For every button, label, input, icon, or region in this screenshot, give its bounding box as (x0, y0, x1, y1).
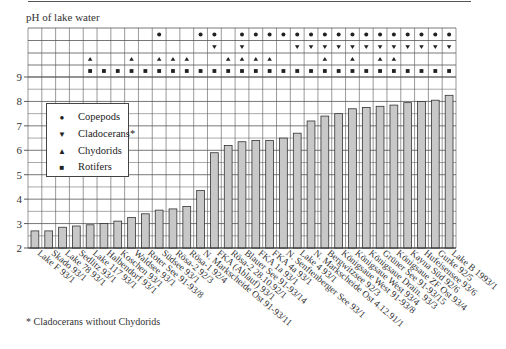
triangle-up-marker-icon (323, 57, 328, 61)
triangle-down-marker-icon (378, 45, 383, 49)
circle-marker-icon (199, 33, 203, 37)
bar (128, 217, 136, 248)
y-tick-label: 9 (17, 71, 23, 83)
triangle-up-marker-icon (157, 57, 162, 61)
square-marker-icon (433, 69, 437, 73)
triangle-down-marker-icon (364, 45, 369, 49)
square-marker-icon (378, 69, 382, 73)
legend-label: Copepods (78, 110, 120, 124)
triangle-down-marker-icon (295, 45, 300, 49)
triangle-down-marker-icon (323, 45, 328, 49)
triangle-down-marker-icon (212, 45, 217, 49)
circle-marker-icon (254, 33, 258, 37)
triangle-up-marker-icon (392, 57, 397, 61)
square-marker-icon (309, 69, 313, 73)
square-marker-icon (102, 69, 106, 73)
circle-marker-icon (392, 33, 396, 37)
y-tick-label: 4 (17, 193, 23, 205)
bar (86, 225, 94, 248)
bar (224, 145, 232, 248)
square-marker-icon (406, 69, 410, 73)
triangle-down-marker-icon (309, 45, 314, 49)
triangle-down-marker-icon (405, 45, 410, 49)
bar (45, 231, 53, 248)
y-tick-label: 8 (17, 95, 23, 107)
bar (100, 224, 108, 248)
legend-label: Cladocerans* (78, 127, 135, 141)
bar (72, 226, 80, 248)
square-marker-icon (447, 69, 451, 73)
triangle-up-marker-icon (88, 57, 93, 61)
circle-marker-icon (378, 33, 382, 37)
circle-marker-icon (406, 33, 410, 37)
triangle-up-marker-icon (226, 57, 231, 61)
square-marker-icon (88, 69, 92, 73)
circle-marker-icon (268, 33, 272, 37)
square-marker-icon (212, 69, 216, 73)
circle-marker-icon (323, 33, 327, 37)
bar (362, 108, 370, 248)
square-marker-icon (185, 69, 189, 73)
circle-marker-icon (447, 33, 451, 37)
bar (390, 105, 398, 248)
legend-item-rotifers: ■ Rotifers (47, 160, 128, 176)
triangle-up-marker-icon (129, 57, 134, 61)
triangle-down-marker-icon (419, 45, 424, 49)
square-marker-icon (240, 69, 244, 73)
triangle-up-marker-icon (171, 57, 176, 61)
bar (183, 206, 191, 248)
square-marker-icon (392, 69, 396, 73)
bar (266, 141, 274, 248)
triangle-down-marker-icon (447, 45, 452, 49)
bar (59, 227, 67, 248)
triangle-down-marker-icon (350, 45, 355, 49)
square-marker-icon (143, 69, 147, 73)
y-tick-label: 2 (17, 242, 23, 254)
triangle-up-marker-icon (254, 57, 259, 61)
legend-item-chydorids: ▲ Chydorids (47, 144, 128, 160)
bar (155, 210, 163, 248)
y-tick-label: 3 (17, 218, 23, 230)
square-marker-icon (130, 69, 134, 73)
bar (141, 214, 149, 248)
bar (349, 109, 357, 248)
bar (321, 116, 329, 248)
y-tick-label: 5 (17, 169, 23, 181)
triangle-down-marker-icon (433, 45, 438, 49)
triangle-down-marker-icon (336, 45, 341, 49)
square-marker-icon (171, 69, 175, 73)
bar (31, 231, 39, 248)
bar (418, 101, 426, 248)
triangle-up-marker-icon (267, 57, 272, 61)
square-marker-icon (254, 69, 258, 73)
legend-label: Rotifers (78, 160, 112, 174)
square-marker-icon (295, 69, 299, 73)
y-axis: 23456789 (17, 71, 29, 254)
square-marker-icon (116, 69, 120, 73)
circle-marker-icon (419, 33, 423, 37)
triangle-up-marker-icon (378, 57, 383, 61)
bar (197, 191, 205, 248)
square-marker-icon (337, 69, 341, 73)
circle-marker-icon: ● (57, 112, 67, 124)
square-marker-icon (282, 69, 286, 73)
circle-marker-icon (309, 33, 313, 37)
square-marker-icon: ■ (57, 162, 67, 174)
square-marker-icon (268, 69, 272, 73)
bar (445, 95, 453, 248)
footnote: * Cladocerans without Chydorids (26, 316, 160, 327)
bar (376, 106, 384, 248)
y-tick-label: 7 (17, 120, 23, 132)
bar (404, 103, 412, 248)
square-marker-icon (199, 69, 203, 73)
triangle-up-marker-icon: ▲ (57, 146, 67, 158)
square-marker-icon (323, 69, 327, 73)
legend-item-copepods: ● Copepods (47, 110, 128, 126)
circle-marker-icon (281, 33, 285, 37)
legend-item-cladocerans: ▼ Cladocerans* (47, 127, 128, 143)
triangle-down-marker-icon: ▼ (57, 129, 67, 141)
bar (293, 133, 301, 248)
square-marker-icon (351, 69, 355, 73)
circle-marker-icon (350, 33, 354, 37)
triangle-down-marker-icon (240, 45, 245, 49)
